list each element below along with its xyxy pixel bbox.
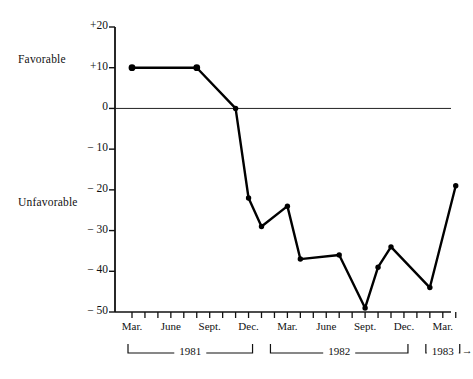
y-tick-label: − 50 xyxy=(58,304,108,316)
data-point-marker xyxy=(298,256,303,261)
series-line xyxy=(132,68,456,308)
x-month-label: Mar. xyxy=(418,320,468,332)
data-point-marker xyxy=(193,64,200,71)
year-continuation-arrow: → xyxy=(462,344,473,356)
y-tick-label: − 30 xyxy=(58,223,108,235)
data-point-marker xyxy=(246,195,251,200)
year-bracket-label: 1982 xyxy=(323,345,355,357)
data-point-marker xyxy=(337,252,342,257)
y-tick-label: 0 xyxy=(58,100,108,112)
data-point-marker xyxy=(375,265,380,270)
data-point-marker xyxy=(259,224,264,229)
data-point-marker xyxy=(362,305,367,310)
data-point-marker xyxy=(427,285,432,290)
data-point-marker xyxy=(285,203,290,208)
data-point-marker xyxy=(233,106,238,111)
y-tick-label: +20 xyxy=(58,19,108,31)
y-tick-label: − 40 xyxy=(58,263,108,275)
data-point-marker xyxy=(129,64,136,71)
data-point-marker xyxy=(453,183,458,188)
y-tick-label: − 20 xyxy=(58,182,108,194)
y-tick-label: +10 xyxy=(58,60,108,72)
data-point-marker xyxy=(388,244,393,249)
year-bracket-label: 1981 xyxy=(174,345,206,357)
y-tick-label: − 10 xyxy=(58,141,108,153)
year-bracket-label: 1983 xyxy=(427,345,459,357)
